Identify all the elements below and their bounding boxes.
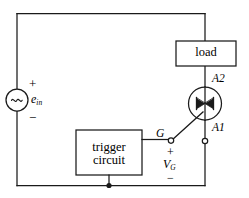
wire-gate-lead xyxy=(173,112,204,140)
trigger-circuit-label-line1: trigger xyxy=(92,140,125,154)
source-label: ein xyxy=(31,93,42,105)
source-plus-sign: + xyxy=(29,77,36,90)
junction-dot-bottom-rail xyxy=(106,183,111,188)
gate-voltage-label: VG xyxy=(163,158,176,170)
load-label: load xyxy=(176,46,236,59)
trigger-circuit-label-line2: circuit xyxy=(93,153,125,167)
triac-terminal-a2-label: A2 xyxy=(212,73,225,85)
source-minus-sign: − xyxy=(29,111,36,124)
triac-gate-label: G xyxy=(156,128,164,140)
circuit-diagram-figure: + ein − load triggercircuit A2 A1 G + VG… xyxy=(0,0,249,198)
gate-voltage-minus-sign: − xyxy=(167,172,174,184)
source-label-subscript: in xyxy=(36,98,42,107)
triac-terminal-a1-label: A1 xyxy=(212,122,225,134)
trigger-circuit-label: triggercircuit xyxy=(76,141,142,168)
gate-terminal-open-circle[interactable] xyxy=(168,138,173,143)
a1-terminal-open-circle[interactable] xyxy=(202,138,207,143)
